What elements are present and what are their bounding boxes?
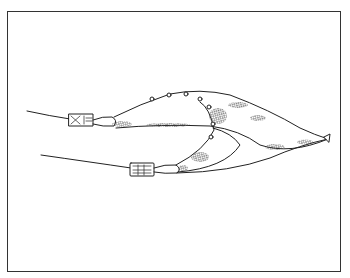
net-belly-curve — [178, 128, 240, 172]
lower-bridle — [154, 165, 179, 174]
lower-otter-board-icon — [130, 163, 154, 176]
upper-bridle — [93, 117, 116, 126]
lower-warp-line — [41, 155, 131, 168]
net-upper-inner — [116, 125, 328, 149]
float-icons — [150, 92, 215, 139]
upper-warp-line — [27, 111, 70, 119]
upper-otter-board-icon — [69, 114, 93, 126]
trawl-illustration — [0, 0, 350, 278]
